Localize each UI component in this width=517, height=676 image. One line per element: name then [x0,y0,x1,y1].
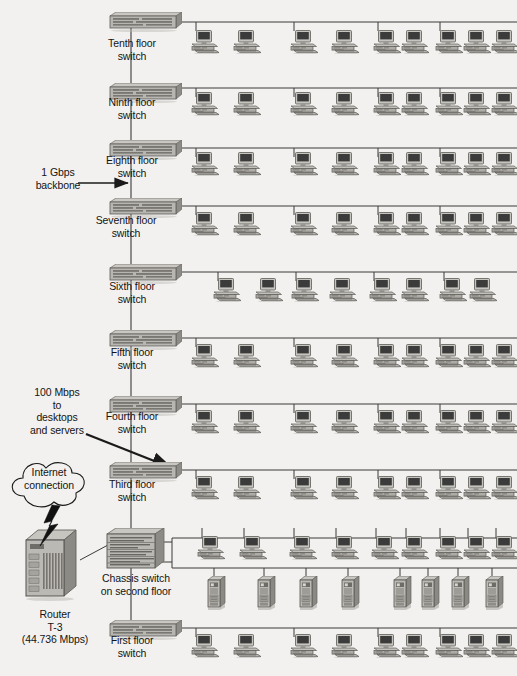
floor-5-workstation-4[interactable] [332,345,359,369]
floor-9-workstation-6[interactable] [402,93,429,117]
floor-7-switch-label: Seventh floor switch [80,214,172,239]
floor-3-workstation-8[interactable] [464,477,491,501]
floor-6-workstation-8[interactable] [470,279,497,303]
floor-2-server-7[interactable] [452,576,469,610]
floor-3-workstation-1[interactable] [192,477,219,501]
floor-7-workstation-1[interactable] [192,213,219,237]
floor-2-server-5[interactable] [394,576,411,610]
floor-10-workstation-6[interactable] [402,31,429,55]
floor-6-workstation-7[interactable] [440,279,467,303]
floor-5-switch-label: Fifth floor switch [86,346,178,371]
floor-7-workstation-4[interactable] [332,213,359,237]
floor-7-workstation-9[interactable] [492,213,517,237]
floor-10-workstation-5[interactable] [374,31,401,55]
floor-3-workstation-2[interactable] [234,477,261,501]
floor-2-server-4[interactable] [342,576,359,610]
network-topology-diagram [0,0,517,676]
floor-6-workstation-2[interactable] [256,279,283,303]
floor-4-workstation-9[interactable] [492,411,517,435]
floor-4-workstation-5[interactable] [374,411,401,435]
floor-8-workstation-4[interactable] [332,153,359,177]
floor-6-workstation-5[interactable] [370,279,397,303]
floor-2-server-6[interactable] [422,576,439,610]
floor-8-workstation-9[interactable] [492,153,517,177]
floor-2-workstation-7[interactable] [436,537,463,561]
floor-1-workstation-9[interactable] [492,635,517,659]
floor-4-workstation-2[interactable] [234,411,261,435]
floor-3-workstation-9[interactable] [492,477,517,501]
floor-5-workstation-5[interactable] [374,345,401,369]
floor-7-workstation-5[interactable] [374,213,401,237]
floor-5-workstation-7[interactable] [436,345,463,369]
floor-2-workstation-5[interactable] [372,537,399,561]
floor-10-workstation-4[interactable] [332,31,359,55]
floor-10-switch[interactable] [110,12,182,32]
floor-6-workstation-1[interactable] [214,279,241,303]
floor-1-workstation-2[interactable] [234,635,261,659]
floor-1-workstation-6[interactable] [402,635,429,659]
floor-10-workstation-7[interactable] [436,31,463,55]
floor-6-workstation-3[interactable] [292,279,319,303]
floor-4-workstation-1[interactable] [192,411,219,435]
floor-9-workstation-2[interactable] [234,93,261,117]
floor-1-workstation-4[interactable] [332,635,359,659]
floor-8-workstation-6[interactable] [402,153,429,177]
floor-6-workstation-6[interactable] [402,279,429,303]
floor-10-workstation-9[interactable] [492,31,517,55]
floor-7-workstation-3[interactable] [291,213,318,237]
floor-10-workstation-8[interactable] [464,31,491,55]
floor-5-workstation-8[interactable] [464,345,491,369]
floor-3-workstation-3[interactable] [291,477,318,501]
floor-8-workstation-8[interactable] [464,153,491,177]
floor-1-workstation-7[interactable] [436,635,463,659]
floor-3-workstation-5[interactable] [374,477,401,501]
floor-7-workstation-6[interactable] [402,213,429,237]
floor-4-workstation-6[interactable] [402,411,429,435]
floor-5-workstation-1[interactable] [192,345,219,369]
floor-10-workstation-2[interactable] [234,31,261,55]
floor-2-server-3[interactable] [300,576,317,610]
annotation-backbone: 1 Gbps backbone [22,166,94,191]
floor-1-workstation-1[interactable] [192,635,219,659]
floor-2-workstation-1[interactable] [198,537,225,561]
floor-2-chassis-switch[interactable] [107,528,164,568]
floor-5-workstation-2[interactable] [234,345,261,369]
floor-2-workstation-6[interactable] [402,537,429,561]
floor-4-workstation-8[interactable] [464,411,491,435]
floor-8-workstation-2[interactable] [234,153,261,177]
floor-2-server-8[interactable] [486,576,503,610]
floor-2-workstation-2[interactable] [240,537,267,561]
floor-7-workstation-7[interactable] [436,213,463,237]
floor-5-workstation-3[interactable] [291,345,318,369]
floor-5-workstation-9[interactable] [492,345,517,369]
floor-1-workstation-3[interactable] [291,635,318,659]
floor-2-server-1[interactable] [208,576,225,610]
floor-2-workstation-9[interactable] [492,537,517,561]
floor-10-workstation-3[interactable] [291,31,318,55]
floor-7-workstation-8[interactable] [464,213,491,237]
floor-8-workstation-3[interactable] [291,153,318,177]
floor-2-server-2[interactable] [258,576,275,610]
floor-3-workstation-4[interactable] [332,477,359,501]
router-icon[interactable] [26,530,76,601]
floor-9-workstation-3[interactable] [291,93,318,117]
floor-9-workstation-4[interactable] [332,93,359,117]
floor-2-workstation-4[interactable] [332,537,359,561]
floor-1-workstation-5[interactable] [374,635,401,659]
floor-6-workstation-4[interactable] [330,279,357,303]
floor-4-workstation-4[interactable] [332,411,359,435]
floor-10-switch-label: Tenth floor switch [86,37,178,62]
floor-9-workstation-9[interactable] [492,93,517,117]
floor-4-workstation-7[interactable] [436,411,463,435]
floor-2-workstation-3[interactable] [290,537,317,561]
annotation-desktops: 100 Mbps to desktops and servers [14,386,100,436]
floor-2-workstation-8[interactable] [464,537,491,561]
floor-10-workstation-1[interactable] [192,31,219,55]
floor-3-workstation-7[interactable] [436,477,463,501]
floor-4-workstation-3[interactable] [291,411,318,435]
floor-3-workstation-6[interactable] [402,477,429,501]
floor-9-workstation-8[interactable] [464,93,491,117]
floor-7-workstation-2[interactable] [234,213,261,237]
floor-1-workstation-8[interactable] [464,635,491,659]
floor-5-workstation-6[interactable] [402,345,429,369]
